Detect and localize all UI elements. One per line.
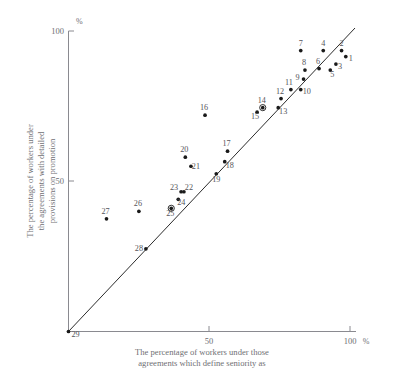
data-point-label: 19 [212, 175, 220, 184]
data-point-label: 4 [321, 39, 325, 48]
data-point-marker [317, 67, 321, 71]
data-point-marker [344, 55, 348, 59]
y-axis-title-line2: the agreements with detailed [36, 131, 46, 230]
x-tick-label-50: 50 [205, 336, 214, 346]
data-point-marker [67, 330, 71, 334]
data-point-marker [299, 49, 303, 53]
data-point-label: 18 [226, 161, 234, 170]
data-point: 26 [134, 199, 142, 213]
data-point-marker [137, 209, 141, 213]
data-point: 1 [344, 54, 353, 63]
data-point: 7 [299, 39, 303, 53]
data-point-label: 15 [251, 112, 259, 121]
data-point-marker [303, 68, 307, 72]
data-point-marker [302, 77, 306, 81]
data-point-label: 9 [296, 73, 300, 82]
data-point: 25 [166, 205, 174, 218]
data-point: 13 [276, 106, 287, 116]
data-point-label: 3 [338, 62, 342, 71]
data-point: 21 [189, 162, 200, 171]
data-point: 3 [334, 62, 342, 71]
data-point-label: 27 [101, 207, 109, 216]
data-point: 22 [182, 183, 193, 194]
data-point-marker [289, 88, 293, 92]
data-point-label: 13 [279, 107, 287, 116]
data-point: 28 [135, 244, 148, 253]
data-point-marker [179, 190, 183, 194]
data-point-marker [144, 247, 148, 251]
data-point: 5 [328, 68, 334, 79]
data-point: 19 [212, 172, 220, 184]
y-axis-title-line3: provisions on promotion [47, 138, 57, 223]
data-point-label: 14 [258, 96, 266, 105]
data-point: 20 [180, 145, 188, 159]
y-axis-percent-symbol: % [76, 17, 83, 26]
data-point-marker [226, 149, 230, 153]
x-axis-percent-symbol: % [363, 337, 370, 346]
data-point-label: 5 [330, 70, 334, 79]
data-point: 23 [170, 183, 183, 194]
data-point-label: 21 [192, 162, 200, 171]
data-point-label: 11 [285, 78, 293, 87]
data-point: 8 [302, 58, 307, 72]
data-point: 4 [321, 39, 325, 53]
data-point-label: 25 [166, 209, 174, 218]
data-point: 18 [223, 160, 234, 170]
data-point: 29 [67, 330, 80, 339]
data-point-marker [105, 217, 109, 221]
data-point: 2 [340, 39, 344, 53]
data-point-marker [183, 155, 187, 159]
x-axis-title-line2: agreements which define seniority as [138, 358, 266, 368]
data-point-label: 2 [340, 39, 344, 48]
y-axis-title: The percentage of workers under the agre… [25, 124, 57, 238]
data-point-marker [340, 49, 344, 53]
data-point-label: 29 [71, 330, 79, 339]
y-tick-label-100: 100 [51, 26, 64, 36]
y-axis-title-line1: The percentage of workers under [25, 124, 35, 238]
data-point: 27 [101, 207, 109, 221]
data-points-layer: 1234567891011121314151617181920212223242… [67, 39, 353, 339]
data-point-label: 26 [134, 199, 142, 208]
data-point-label: 1 [349, 54, 353, 63]
data-point-label: 7 [299, 39, 303, 48]
x-axis-title-line1: The percentage of workers under those [135, 347, 269, 357]
data-point-marker [203, 113, 207, 117]
data-point: 11 [285, 78, 293, 92]
data-point-label: 28 [135, 244, 143, 253]
data-point: 15 [251, 110, 259, 121]
x-tick-label-100: 100 [344, 336, 357, 346]
data-point: 9 [296, 73, 306, 82]
x-axis-title: The percentage of workers under those ag… [135, 347, 269, 368]
data-point-label: 23 [170, 183, 178, 192]
data-point: 14 [258, 96, 266, 111]
data-point-marker [261, 106, 265, 110]
data-point-marker [321, 49, 325, 53]
data-point-label: 24 [177, 198, 185, 207]
data-point: 12 [276, 87, 284, 101]
data-point: 24 [176, 197, 185, 207]
data-point-label: 10 [303, 87, 311, 96]
data-point-label: 17 [222, 139, 230, 148]
data-point-label: 6 [316, 57, 320, 66]
data-point-label: 12 [276, 87, 284, 96]
scatter-plot-figure: 100 50 50 100 % % 1234567891011121314151… [0, 0, 404, 370]
data-point: 16 [200, 103, 208, 117]
chart-canvas: 100 50 50 100 % % 1234567891011121314151… [0, 0, 404, 370]
data-point-label: 8 [302, 58, 306, 67]
data-point: 10 [299, 87, 311, 96]
data-point-label: 22 [185, 183, 193, 192]
data-point-label: 16 [200, 103, 208, 112]
data-point-label: 20 [180, 145, 188, 154]
data-point-marker [279, 97, 283, 101]
data-point: 17 [222, 139, 230, 153]
